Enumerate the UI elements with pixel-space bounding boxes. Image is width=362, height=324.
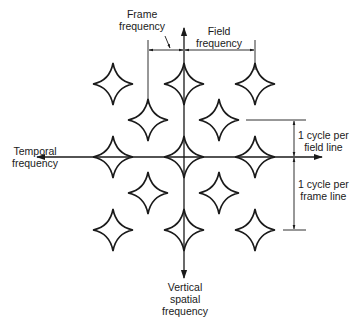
- spectrum-star-icon: [235, 209, 275, 251]
- spectrum-star-icon: [199, 99, 239, 141]
- spectrum-star-icon: [93, 209, 133, 251]
- spectrum-star-icon: [128, 99, 168, 141]
- spectrum-star-icon: [93, 63, 133, 105]
- field-frequency-label: Field frequency: [196, 25, 242, 49]
- cycle-per-frame-line-label: 1 cycle per frame line: [298, 178, 349, 202]
- spectrum-star-icon: [128, 172, 168, 214]
- vertical-spatial-frequency-label: Vertical spatial frequency: [162, 281, 208, 317]
- spectrum-star-icon: [199, 172, 239, 214]
- cycle-per-field-line-label: 1 cycle per field line: [298, 129, 349, 153]
- temporal-frequency-label: Temporal frequency: [12, 145, 58, 169]
- frame-frequency-label: Frame frequency: [119, 8, 165, 32]
